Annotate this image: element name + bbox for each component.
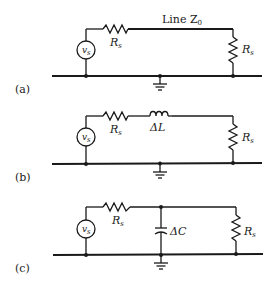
panel-b: vs Rs ΔL Rs (b) (15, 112, 262, 185)
junction-dot (84, 74, 88, 78)
panel-c: vs Rs ΔC Rs (c) (15, 203, 263, 275)
line-label: Line Z0 (162, 13, 202, 27)
ground-icon (153, 164, 167, 179)
load-resistor-label: Rs (241, 43, 254, 57)
ground-rail (52, 163, 262, 164)
load-resistor-label: Rs (243, 225, 256, 239)
source-label: vs (82, 132, 91, 144)
junction-dot (84, 253, 88, 257)
capacitor-label: ΔC (169, 225, 187, 238)
source-label: vs (82, 45, 91, 57)
ground-icon (154, 255, 168, 269)
series-resistor-label: Rs (111, 214, 124, 228)
circuit-figure: vs Rs Line Z0 Rs (a) vs Rs (0, 0, 280, 286)
inductor-label: ΔL (149, 121, 165, 134)
series-resistor-icon (103, 25, 128, 33)
load-resistor-icon (229, 124, 237, 150)
junction-dot (234, 252, 238, 256)
series-resistor-icon (103, 203, 130, 211)
load-resistor-label: Rs (241, 131, 254, 145)
inductor-icon (150, 112, 168, 117)
load-resistor-icon (229, 37, 237, 63)
ground-icon (153, 76, 167, 90)
panel-a: vs Rs Line Z0 Rs (a) (15, 13, 262, 96)
series-resistor-icon (103, 112, 128, 120)
series-resistor-label: Rs (109, 123, 122, 137)
junction-dot (231, 161, 235, 165)
series-resistor-label: Rs (109, 36, 122, 50)
junction-dot (84, 162, 88, 166)
panel-tag: (a) (15, 83, 30, 96)
load-resistor-icon (232, 215, 240, 241)
junction-dot (231, 74, 235, 78)
source-label: vs (82, 224, 91, 236)
panel-tag: (c) (15, 262, 30, 275)
panel-tag: (b) (15, 171, 31, 184)
